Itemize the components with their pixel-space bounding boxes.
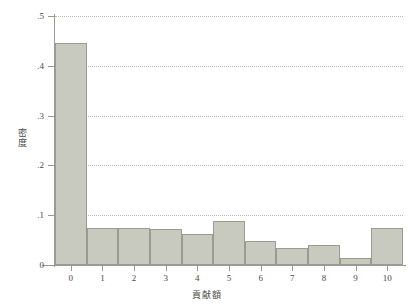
- y-tick-label: .2: [20, 161, 44, 170]
- bar: [213, 221, 245, 265]
- x-tick-mark: [356, 266, 357, 271]
- y-tick-label: .3: [20, 112, 44, 121]
- x-tick-mark: [102, 266, 103, 271]
- x-tick-label: 6: [249, 273, 273, 283]
- bar: [276, 248, 308, 265]
- gridline: [55, 116, 403, 117]
- y-tick-label: 0: [20, 261, 44, 270]
- x-axis-title: 貢献額: [0, 288, 413, 301]
- bar: [150, 229, 182, 265]
- bar: [371, 228, 403, 265]
- y-tick-label: .5: [20, 12, 44, 21]
- bar: [308, 245, 340, 265]
- x-tick-label: 5: [217, 273, 241, 283]
- x-tick-mark: [197, 266, 198, 271]
- y-tick-mark: [48, 265, 54, 266]
- x-tick-mark: [387, 266, 388, 271]
- bar: [245, 241, 277, 265]
- x-tick-label: 9: [344, 273, 368, 283]
- x-tick-label: 0: [59, 273, 83, 283]
- x-tick-label: 2: [122, 273, 146, 283]
- plot-area: [55, 16, 403, 265]
- bar: [87, 228, 119, 265]
- y-tick-mark: [48, 215, 54, 216]
- x-tick-label: 8: [312, 273, 336, 283]
- y-tick-label: .1: [20, 211, 44, 220]
- gridline: [55, 16, 403, 17]
- x-tick-label: 4: [185, 273, 209, 283]
- bar: [55, 43, 87, 265]
- gridline: [55, 165, 403, 166]
- gridline: [55, 66, 403, 67]
- gridline: [55, 215, 403, 216]
- bar: [118, 228, 150, 265]
- y-tick-mark: [48, 16, 54, 17]
- x-tick-mark: [261, 266, 262, 271]
- x-tick-label: 7: [280, 273, 304, 283]
- x-tick-mark: [292, 266, 293, 271]
- y-axis-title: 密度: [11, 128, 27, 148]
- bar: [340, 258, 372, 265]
- x-tick-label: 10: [375, 273, 399, 283]
- x-tick-mark: [324, 266, 325, 271]
- x-tick-label: 3: [154, 273, 178, 283]
- y-tick-mark: [48, 66, 54, 67]
- x-tick-mark: [166, 266, 167, 271]
- y-axis-line: [54, 14, 55, 267]
- x-tick-mark: [71, 266, 72, 271]
- x-axis-line: [42, 265, 406, 266]
- y-tick-label: .4: [20, 62, 44, 71]
- x-tick-mark: [134, 266, 135, 271]
- histogram-chart: 密度 0.1.2.3.4.5 012345678910 貢献額: [0, 0, 413, 307]
- x-tick-mark: [229, 266, 230, 271]
- y-tick-mark: [48, 165, 54, 166]
- bar: [182, 234, 214, 265]
- y-tick-mark: [48, 116, 54, 117]
- x-tick-label: 1: [90, 273, 114, 283]
